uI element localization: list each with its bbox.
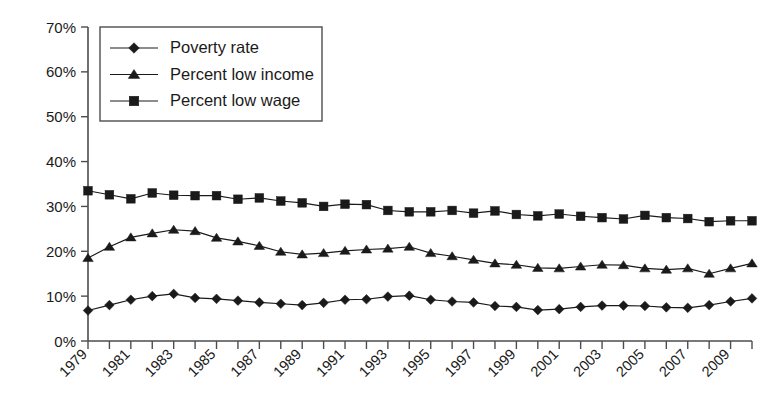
marker-diamond [105,300,115,310]
marker-diamond [169,289,179,299]
marker-diamond [512,302,522,312]
marker-diamond [297,300,307,310]
marker-diamond [683,303,693,313]
marker-square [491,207,500,216]
x-tick-label: 2001 [527,346,561,380]
marker-diamond [597,301,607,311]
data-series-group [83,186,757,315]
marker-diamond [83,306,93,316]
marker-square [683,214,692,223]
y-tick-label: 10% [46,288,76,305]
marker-square [555,210,564,219]
marker-square [105,190,114,199]
x-tick-label: 1983 [142,346,176,380]
marker-square [191,191,200,200]
marker-diamond [147,291,157,301]
marker-triangle [747,259,757,267]
series-triangle [83,225,757,277]
x-tick-label: 1995 [399,346,433,380]
marker-diamond [233,296,243,306]
x-tick-label: 2009 [699,346,733,380]
marker-triangle [597,260,607,268]
x-tick-label: 1989 [270,346,304,380]
marker-square [533,212,542,221]
marker-triangle [211,233,221,241]
marker-diamond [276,299,286,309]
marker-triangle [104,242,114,250]
marker-diamond [640,301,650,311]
marker-square [619,215,628,224]
marker-square [384,206,393,215]
y-tick-label: 0% [54,333,76,350]
legend-label: Poverty rate [170,38,259,56]
marker-square [84,186,93,195]
marker-square [448,206,457,215]
x-tick-label: 1987 [227,346,261,380]
marker-square [576,212,585,221]
line-chart: 0%10%20%30%40%50%60%70% 1979198119831985… [0,0,767,417]
marker-diamond [554,304,564,314]
x-tick-label: 1999 [484,346,518,380]
x-tick-label: 1991 [313,346,347,380]
marker-diamond [619,301,629,311]
marker-diamond [255,298,265,308]
marker-square [276,197,285,206]
marker-diamond [404,291,414,301]
marker-diamond [340,295,350,305]
y-tick-label: 70% [46,19,76,36]
marker-diamond [533,305,543,315]
marker-triangle [404,242,414,250]
marker-diamond [383,292,393,302]
marker-square [705,217,714,226]
y-tick-label: 40% [46,153,76,170]
x-tick-label: 1979 [56,346,90,380]
series-diamond [83,289,757,315]
marker-diamond [661,303,671,313]
marker-diamond [447,297,457,307]
marker-diamond [212,294,222,304]
x-tick-label: 2005 [613,346,647,380]
legend-label: Percent low income [170,65,314,83]
y-axis: 0%10%20%30%40%50%60%70% [46,19,88,350]
series-line-diamond [88,294,752,311]
y-tick-label: 30% [46,198,76,215]
marker-square [148,189,157,198]
series-line-square [88,191,752,222]
marker-diamond [747,294,757,304]
marker-diamond [319,298,329,308]
marker-square [126,194,135,203]
marker-diamond [126,295,136,305]
marker-square [298,199,307,208]
marker-diamond [190,293,200,303]
marker-diamond [490,301,500,311]
x-tick-label: 2003 [570,346,604,380]
series-square [84,186,757,226]
marker-square [341,200,350,209]
marker-triangle [83,253,93,261]
legend-label: Percent low wage [170,91,300,109]
chart-legend: Poverty ratePercent low incomePercent lo… [100,27,322,121]
marker-square [512,210,521,219]
marker-square [319,202,328,211]
marker-diamond [576,302,586,312]
marker-square [469,209,478,218]
marker-square [234,195,243,204]
marker-square [426,207,435,216]
marker-square [662,213,671,222]
marker-square [598,213,607,222]
y-tick-label: 20% [46,243,76,260]
x-tick-label: 1997 [442,346,476,380]
marker-diamond [426,295,436,305]
marker-square [169,191,178,200]
marker-triangle [682,264,692,272]
y-tick-label: 50% [46,108,76,125]
marker-square [641,211,650,220]
x-axis: 1979198119831985198719891991199319951997… [56,341,752,380]
chart-canvas: 0%10%20%30%40%50%60%70% 1979198119831985… [0,0,767,417]
marker-square [362,200,371,209]
y-tick-label: 60% [46,63,76,80]
marker-square [405,207,414,216]
marker-square [748,216,757,225]
x-tick-label: 1981 [99,346,133,380]
x-tick-label: 2007 [656,346,690,380]
